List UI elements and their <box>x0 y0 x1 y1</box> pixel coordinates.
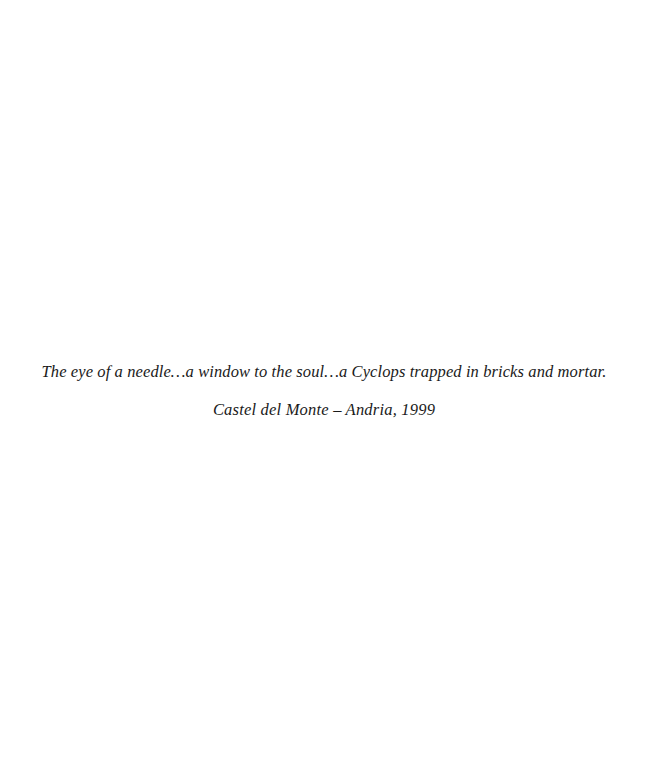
photo-caption-location-date: Castel del Monte – Andria, 1999 <box>0 400 648 420</box>
page: The eye of a needle…a window to the soul… <box>0 0 648 757</box>
photo-caption-quote: The eye of a needle…a window to the soul… <box>0 362 648 382</box>
